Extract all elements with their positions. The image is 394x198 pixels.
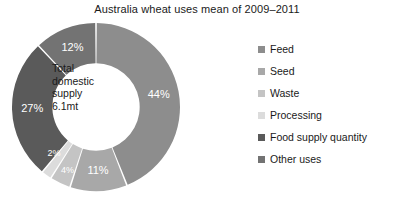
legend-item-processing[interactable]: Processing — [258, 104, 394, 126]
pie-slice-value-label: 2% — [47, 148, 60, 158]
legend-item-label: Processing — [270, 109, 322, 121]
legend-swatch-icon — [258, 156, 265, 163]
legend-item-waste[interactable]: Waste — [258, 82, 394, 104]
center-total-line: domestic — [52, 75, 126, 88]
legend-swatch-icon — [258, 68, 265, 75]
legend-swatch-icon — [258, 134, 265, 141]
donut-chart-figure: Australia wheat uses mean of 2009–2011 4… — [0, 0, 394, 198]
center-total-line: Total — [52, 62, 126, 75]
legend-item-seed[interactable]: Seed — [258, 60, 394, 82]
legend-swatch-icon — [258, 112, 265, 119]
center-total-line: 6.1mt — [52, 100, 126, 113]
center-total-line: supply — [52, 87, 126, 100]
center-total-label: Totaldomesticsupply6.1mt — [52, 62, 126, 112]
pie-slice-value-label: 12% — [61, 41, 83, 53]
legend-item-other-uses[interactable]: Other uses — [258, 148, 394, 170]
legend-swatch-icon — [258, 90, 265, 97]
legend-swatch-icon — [258, 46, 265, 53]
legend-item-label: Feed — [270, 43, 294, 55]
legend-item-feed[interactable]: Feed — [258, 38, 394, 60]
legend-item-label: Waste — [270, 87, 299, 99]
legend-item-label: Seed — [270, 65, 295, 77]
pie-slice-value-label: 44% — [148, 88, 170, 100]
pie-slice-value-label: 4% — [61, 165, 74, 175]
pie-slice-value-label: 27% — [21, 102, 43, 114]
chart-title: Australia wheat uses mean of 2009–2011 — [0, 3, 394, 15]
pie-slice-value-label: 11% — [87, 164, 108, 176]
legend-item-label: Other uses — [270, 153, 321, 165]
chart-legend: FeedSeedWasteProcessingFood supply quant… — [258, 38, 394, 170]
legend-item-label: Food supply quantity — [270, 131, 367, 143]
legend-item-food-supply-quantity[interactable]: Food supply quantity — [258, 126, 394, 148]
